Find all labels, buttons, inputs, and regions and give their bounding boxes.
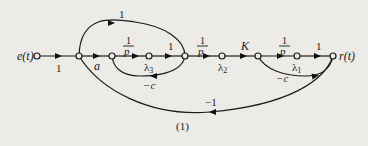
label-lambda1: λ1 [292, 61, 301, 75]
gain-bottom-arc: −1 [205, 96, 217, 108]
gain-loop2: −c [276, 72, 288, 84]
gain-n7-r: 1 [316, 40, 322, 52]
node-n1 [76, 53, 82, 59]
arrow-n4-n5 [203, 53, 210, 59]
output-label: r(t) [339, 49, 355, 63]
arrow-e-n1 [55, 53, 62, 59]
arrow-n3-n4 [165, 53, 172, 59]
frac3-den: p [279, 45, 286, 57]
gain-k: K [240, 39, 250, 53]
node-lambda1 [294, 53, 300, 59]
figure-caption: (1) [176, 120, 189, 133]
node-lambda3 [146, 53, 152, 59]
node-n4 [182, 53, 188, 59]
label-lambda2: λ2 [218, 61, 227, 75]
arrow-n2-n3 [132, 53, 139, 59]
gain-top-arc: 1 [119, 8, 125, 20]
gain-loop1: −c [143, 79, 155, 91]
frac2-den: p [197, 45, 204, 57]
node-r [330, 53, 336, 59]
node-e [34, 53, 40, 59]
arrow-n5-n6 [240, 53, 247, 59]
gain-e-n1: 1 [56, 62, 62, 74]
arrow-bottom-arc [209, 109, 216, 115]
arrow-n7-r [314, 53, 321, 59]
gain-a: a [94, 59, 100, 73]
node-n6 [255, 53, 261, 59]
node-lambda2 [219, 53, 225, 59]
label-lambda3: λ3 [144, 61, 153, 75]
signal-flow-graph: e(t) r(t) 1 a 1 p 1 1 p K 1 p 1 1 −c −c … [0, 0, 368, 146]
frac1-den: p [123, 45, 130, 57]
arrow-top-arc [108, 20, 115, 26]
gain-n3-n4: 1 [168, 40, 174, 52]
node-n2 [109, 53, 115, 59]
input-label: e(t) [17, 49, 34, 63]
